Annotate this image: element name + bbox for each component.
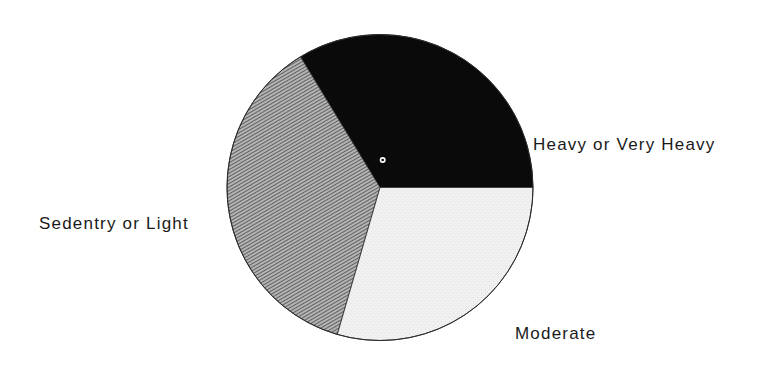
pie-chart bbox=[0, 0, 782, 366]
pie-slices bbox=[227, 35, 533, 341]
center-marker-icon bbox=[380, 157, 386, 163]
slice-label-moderate: Moderate bbox=[515, 325, 596, 342]
slice-label-sedentary: Sedentry or Light bbox=[39, 215, 189, 232]
slice-label-heavy: Heavy or Very Heavy bbox=[533, 136, 715, 153]
